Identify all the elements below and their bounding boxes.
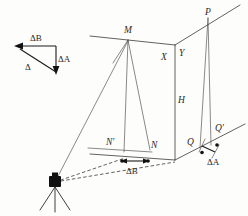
tripod-leg-left (40, 187, 55, 210)
helper-line-at-m (113, 40, 128, 63)
line-m-to-n (128, 40, 150, 150)
instrument-sight-lines (55, 41, 175, 182)
roof-edge-left-face (90, 36, 175, 45)
delta-b-base-label: ΔB (126, 166, 138, 176)
delta-a-endpoint-dot-left (200, 151, 204, 155)
theodolite-on-tripod (40, 173, 70, 213)
delta-a-base-measurement: ΔA (199, 139, 220, 167)
point-label-n: N (150, 140, 158, 150)
delta-a-endpoint-dot-right (215, 143, 219, 147)
base-edge-right-face (175, 124, 245, 160)
point-label-q-prime: Q′ (215, 123, 225, 133)
delta-b-arrowhead (14, 43, 23, 50)
theodolite-head (52, 173, 58, 177)
tripod-leg-right (55, 187, 70, 210)
delta-a-vector-label: ΔA (58, 54, 71, 64)
point-label-n-prime: N′ (105, 137, 115, 147)
ground-reference-line-n-prime (88, 148, 152, 152)
error-vector-triangle: ΔB ΔA Δ (14, 33, 71, 75)
base-edge-left-face (90, 154, 175, 160)
line-p-to-q (200, 18, 208, 148)
delta-b-endpoint-dot-right (146, 159, 150, 163)
dimension-label-y: Y (179, 48, 186, 58)
delta-b-vector-label: ΔB (30, 33, 42, 43)
figure-canvas: ΔB ΔA Δ (0, 0, 248, 216)
point-label-p: P (204, 7, 211, 17)
point-label-q: Q (187, 137, 194, 147)
dimension-label-h: H (177, 95, 186, 105)
p-to-q-plumb-lines (200, 18, 211, 148)
delta-a-base-label: ΔA (207, 157, 220, 167)
theodolite-body (49, 176, 61, 187)
point-label-m: M (123, 25, 133, 35)
sight-line-to-base-dashed (55, 162, 175, 182)
dimension-label-x: X (160, 52, 168, 62)
delta-a-measure-line (202, 146, 215, 152)
delta-resultant-label: Δ (25, 62, 31, 72)
surveying-error-figure: ΔB ΔA Δ (0, 0, 248, 216)
line-m-to-n-prime (124, 40, 128, 152)
line-p-to-q-prime (208, 18, 211, 145)
delta-b-endpoint-dot-left (120, 159, 124, 163)
